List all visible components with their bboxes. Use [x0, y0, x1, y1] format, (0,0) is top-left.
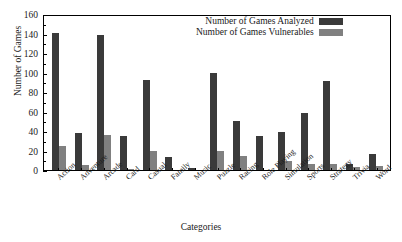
y-minor-tick	[43, 161, 46, 162]
y-minor-tick	[43, 83, 46, 84]
bar-group	[93, 16, 116, 170]
y-tick-label: 60	[14, 108, 38, 118]
bar-group	[319, 16, 342, 170]
legend-label: Number of Games Analyzed	[205, 16, 313, 26]
y-tick-label: 0	[14, 166, 38, 176]
bar-group	[184, 16, 207, 170]
y-minor-tick	[43, 64, 46, 65]
y-tick-label: 140	[14, 30, 38, 40]
legend-label: Number of Games Vulnerables	[196, 27, 314, 37]
legend-item: Number of Games Vulnerables	[196, 27, 343, 37]
y-tick-label: 160	[14, 10, 38, 20]
y-tick-mark	[43, 132, 47, 133]
y-tick-mark	[43, 113, 47, 114]
y-tick-mark	[43, 152, 47, 153]
y-tick-mark	[43, 74, 47, 75]
y-minor-tick	[43, 142, 46, 143]
y-tick-label: 120	[14, 49, 38, 59]
y-tick-mark	[43, 35, 47, 36]
bar-group	[161, 16, 184, 170]
y-tick-label: 20	[14, 147, 38, 157]
bar	[233, 121, 240, 170]
bar	[323, 81, 330, 170]
y-tick-mark	[43, 54, 47, 55]
bar	[97, 35, 104, 170]
bar-group	[274, 16, 297, 170]
y-minor-tick	[43, 103, 46, 104]
y-tick-label: 40	[14, 127, 38, 137]
bar	[210, 73, 217, 170]
bar	[52, 33, 59, 170]
bar-group	[342, 16, 365, 170]
chart-legend: Number of Games AnalyzedNumber of Games …	[196, 16, 343, 37]
y-tick-mark	[43, 93, 47, 94]
y-minor-tick	[43, 25, 46, 26]
y-minor-tick	[43, 122, 46, 123]
bar-group	[71, 16, 94, 170]
legend-swatch	[319, 18, 343, 25]
bar	[143, 80, 150, 170]
legend-swatch	[319, 29, 343, 36]
bar-group	[297, 16, 320, 170]
y-tick-mark	[43, 171, 47, 172]
bar-group	[364, 16, 387, 170]
y-tick-label: 100	[14, 69, 38, 79]
bar-group	[206, 16, 229, 170]
y-tick-label: 80	[14, 88, 38, 98]
bar-group	[138, 16, 161, 170]
bar	[75, 133, 82, 170]
x-axis-title: Categories	[0, 222, 402, 232]
bar-group	[48, 16, 71, 170]
bar-groups-container	[44, 16, 390, 170]
y-minor-tick	[43, 44, 46, 45]
bar-group	[116, 16, 139, 170]
bar-group	[229, 16, 252, 170]
y-tick-mark	[43, 15, 47, 16]
bar-chart-figure: Number of Games 020406080100120140160 Ac…	[0, 0, 402, 242]
bar-group	[251, 16, 274, 170]
legend-item: Number of Games Analyzed	[205, 16, 342, 26]
plot-area	[43, 15, 391, 171]
